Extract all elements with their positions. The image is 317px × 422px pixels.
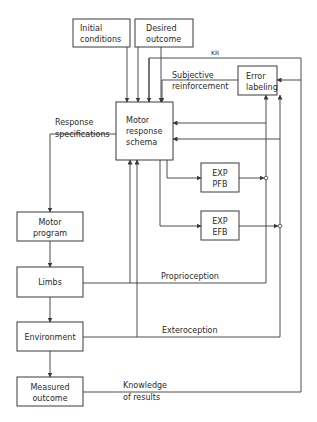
error-labeling-line1: Error [246,72,266,81]
exp-pfb-line1: EXP [212,169,228,178]
box-initial-conditions: Initial conditions [73,19,130,47]
response-spec-line1: Response [55,118,94,127]
desired-outcome-line2: outcome [146,35,181,44]
box-exp-pfb: EXP PFB [201,163,239,192]
exp-efb-line1: EXP [212,217,228,226]
motor-program-line1: Motor [38,218,62,227]
limbs-label: Limbs [38,278,62,287]
measured-outcome-line1: Measured [30,383,69,392]
subjective-label-line1: Subjective [172,71,214,80]
motor-schema-diagram: Initial conditions Desired outcome Motor… [0,0,317,422]
exteroception-label: Exteroception [162,326,218,335]
subjective-label-line2: reinforcement [172,82,228,91]
arrow-exteroception [83,160,280,337]
error-labeling-line2: labeling [246,83,278,92]
arrow-kr-to-error-labeling [277,58,301,80]
box-measured-outcome: Measured outcome [17,377,83,406]
response-spec-line2: specifications [55,130,110,139]
arrow-response-specifications [50,134,116,212]
box-exp-efb: EXP EFB [201,211,239,240]
kr-label-line2: of results [123,393,160,402]
kr-label-line1: Knowledge [123,381,167,390]
box-error-labeling: Error labeling [238,66,278,95]
environment-label: Environment [24,333,75,342]
box-limbs: Limbs [17,267,83,297]
initial-conditions-line2: conditions [80,35,121,44]
motor-program-line2: program [33,229,67,238]
schema-line3: schema [126,138,157,147]
schema-line2: response [126,127,162,136]
exp-efb-line2: EFB [212,228,227,237]
kr-marker: KR [211,49,219,56]
arrows-schema-to-exp [160,160,201,226]
arrows-exp-to-comparators [239,176,282,228]
schema-line1: Motor [126,116,150,125]
desired-outcome-line1: Desired [146,24,177,33]
feedback-verticals [266,80,301,392]
exp-pfb-line2: PFB [213,180,228,189]
measured-outcome-line2: outcome [32,394,67,403]
initial-conditions-line1: Initial [80,24,102,33]
box-desired-outcome: Desired outcome [135,19,193,47]
proprioception-label: Proprioception [161,272,219,281]
box-environment: Environment [17,322,83,351]
box-motor-response-schema: Motor response schema [116,102,173,160]
box-motor-program: Motor program [17,212,83,241]
arrows-feedback-to-schema [173,123,280,139]
